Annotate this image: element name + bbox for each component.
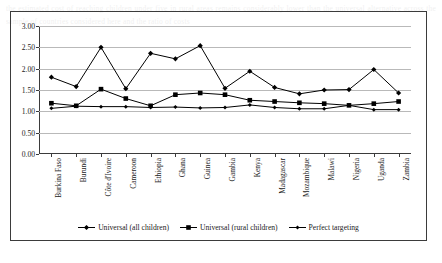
data-point [49, 106, 53, 110]
legend-item[interactable]: Universal (rural children) [180, 223, 278, 232]
data-point [173, 92, 178, 97]
x-tick-mark [76, 154, 77, 157]
x-tick-mark [324, 154, 325, 157]
y-tick-label: 0.00 [22, 150, 35, 159]
x-tick-mark [250, 154, 251, 157]
data-point [248, 103, 252, 107]
y-tick-mark [36, 154, 39, 155]
legend-label: Universal (rural children) [200, 223, 278, 232]
x-tick-mark [225, 154, 226, 157]
data-point [273, 105, 277, 109]
legend-label: Perfect targeting [309, 223, 359, 232]
data-point [248, 98, 253, 103]
x-axis-label: Côte d'Ivoire [104, 158, 113, 196]
series-layer [39, 26, 411, 154]
data-point [372, 108, 376, 112]
data-point [297, 101, 302, 106]
y-tick-label: 1.00 [22, 107, 35, 116]
x-axis-label: Madagascar [278, 158, 287, 194]
x-axis-label: Uganda [377, 158, 386, 181]
data-point [198, 91, 203, 96]
data-point [297, 91, 302, 96]
series-line [51, 89, 398, 106]
legend-marker-diamond-small-icon [289, 223, 306, 232]
data-point [272, 99, 277, 104]
x-axis-label: Zambia [402, 158, 411, 181]
legend-label: Universal (all children) [98, 223, 169, 232]
y-tick-label: 2.50 [22, 43, 35, 52]
x-axis-label: Nigeria [352, 158, 361, 180]
x-axis-label: Cameroon [129, 158, 138, 189]
data-point [198, 106, 202, 110]
x-axis-label: Gambia [228, 158, 237, 181]
x-tick-mark [299, 154, 300, 157]
x-axis-category-labels: Burkina FasoBurundiCôte d'IvoireCameroon… [39, 158, 411, 218]
x-tick-mark [374, 154, 375, 157]
data-point [74, 84, 79, 89]
data-point [99, 105, 103, 109]
y-tick-label: 1.50 [22, 86, 35, 95]
x-tick-mark [126, 154, 127, 157]
x-axis-label: Guinea [203, 158, 212, 179]
data-point [297, 107, 301, 111]
legend-marker-diamond-icon [78, 223, 95, 232]
y-tick-label: 2.00 [22, 64, 35, 73]
x-tick-mark [349, 154, 350, 157]
data-point [322, 101, 327, 106]
x-axis-label: Mozambique [302, 158, 311, 197]
data-point [272, 85, 277, 90]
data-point [124, 96, 129, 101]
chart-figure: 0.000.501.001.502.002.503.00 Burkina Fas… [10, 11, 427, 241]
data-point [99, 87, 104, 92]
y-tick-label: 0.50 [22, 128, 35, 137]
data-point [322, 107, 326, 111]
legend-item[interactable]: Perfect targeting [289, 223, 359, 232]
x-tick-mark [275, 154, 276, 157]
x-tick-mark [51, 154, 52, 157]
x-tick-mark [399, 154, 400, 157]
x-axis-label: Ghana [178, 158, 187, 177]
plot-area: 0.000.501.001.502.002.503.00 [39, 26, 411, 154]
x-axis-label: Malawi [327, 158, 336, 181]
x-tick-mark [101, 154, 102, 157]
data-point [397, 108, 401, 112]
data-point [322, 87, 327, 92]
data-point [223, 105, 227, 109]
x-axis-label: Burundi [79, 158, 88, 182]
chart-legend: Universal (all children)Universal (rural… [11, 223, 426, 232]
legend-marker-square-icon [180, 223, 197, 232]
data-point [372, 101, 377, 106]
data-point [223, 92, 228, 97]
x-axis-label: Ethiopia [154, 158, 163, 183]
x-axis-label: Kenya [253, 158, 262, 177]
data-point [49, 75, 54, 80]
y-tick-label: 3.00 [22, 22, 35, 31]
data-point [173, 105, 177, 109]
data-point [396, 99, 401, 104]
data-point [49, 101, 54, 106]
data-point [98, 45, 103, 50]
data-point [173, 56, 178, 61]
x-axis-label: Burkina Faso [54, 158, 63, 198]
data-point [198, 43, 203, 48]
x-tick-mark [151, 154, 152, 157]
legend-item[interactable]: Universal (all children) [78, 223, 169, 232]
plot-canvas: 0.000.501.001.502.002.503.00 [39, 26, 411, 154]
data-point [124, 105, 128, 109]
x-tick-mark [175, 154, 176, 157]
x-tick-mark [200, 154, 201, 157]
